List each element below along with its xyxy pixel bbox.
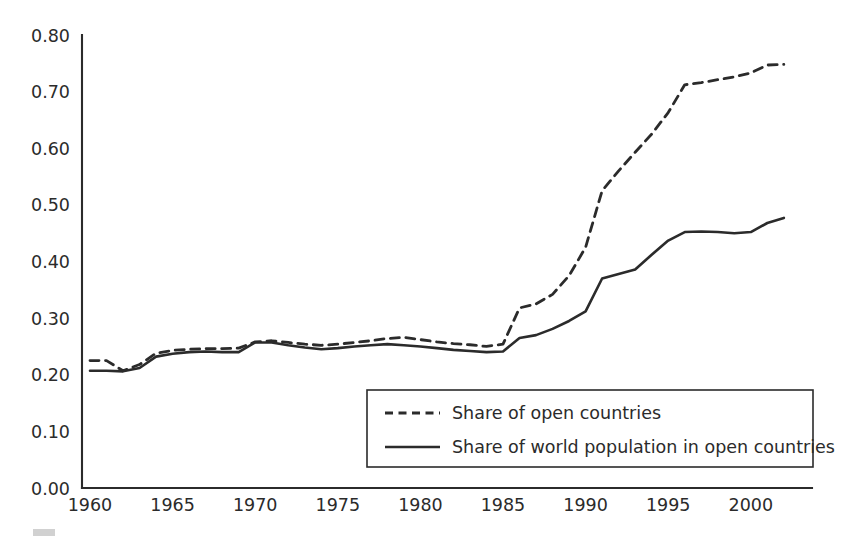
legend-label: Share of world population in open countr… — [452, 437, 835, 457]
chart-legend: Share of open countriesShare of world po… — [367, 390, 835, 467]
y-tick-label: 0.30 — [31, 309, 70, 329]
x-tick-label: 1960 — [68, 495, 113, 515]
y-tick-label: 0.60 — [31, 139, 70, 159]
x-axis-tick-labels: 196019651970197519801985199019952000 — [68, 495, 773, 515]
y-tick-label: 0.10 — [31, 422, 70, 442]
y-tick-label: 0.20 — [31, 365, 70, 385]
x-tick-label: 2000 — [729, 495, 774, 515]
chart-canvas: 0.000.100.200.300.400.500.600.700.80 196… — [0, 0, 843, 546]
y-axis-tick-labels: 0.000.100.200.300.400.500.600.700.80 — [31, 26, 70, 499]
x-tick-label: 1985 — [481, 495, 526, 515]
x-tick-label: 1995 — [646, 495, 691, 515]
y-tick-label: 0.50 — [31, 195, 70, 215]
x-tick-label: 1965 — [150, 495, 195, 515]
line-chart: 0.000.100.200.300.400.500.600.700.80 196… — [0, 0, 843, 546]
series-line-open-countries — [90, 64, 784, 370]
scan-artifact — [33, 529, 55, 536]
legend-label: Share of open countries — [452, 403, 661, 423]
x-tick-label: 1975 — [316, 495, 361, 515]
x-tick-label: 1990 — [563, 495, 608, 515]
y-tick-label: 0.40 — [31, 252, 70, 272]
x-tick-label: 1970 — [233, 495, 278, 515]
y-tick-label: 0.70 — [31, 82, 70, 102]
y-tick-label: 0.80 — [31, 26, 70, 46]
y-tick-label: 0.00 — [31, 479, 70, 499]
x-tick-label: 1980 — [398, 495, 443, 515]
